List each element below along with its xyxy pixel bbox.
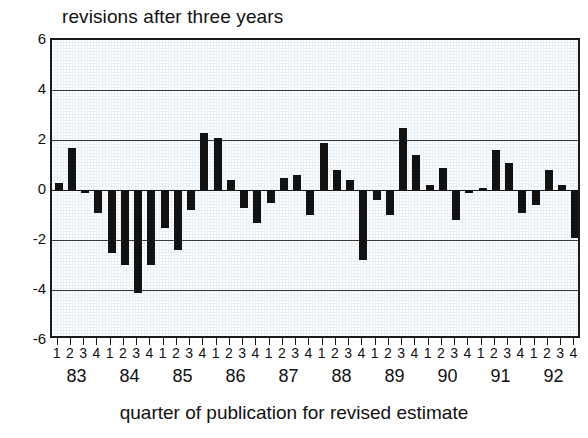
bar: [227, 180, 235, 190]
x-tick-mark: [534, 338, 535, 345]
chart-title: revisions after three years: [62, 6, 283, 28]
bar: [94, 190, 102, 213]
bar: [108, 190, 116, 253]
x-tick-mark: [361, 338, 362, 345]
x-tick-mark: [282, 338, 283, 345]
x-axis-quarter-labels: 1234123412341234123412341234123412341234: [50, 345, 580, 365]
x-tick-mark: [520, 338, 521, 345]
y-tick-label: -6: [2, 331, 46, 346]
quarter-label: 1: [209, 345, 223, 362]
x-tick-mark: [481, 338, 482, 345]
x-tick-mark: [428, 338, 429, 345]
quarter-label: 3: [341, 345, 355, 362]
bar: [532, 190, 540, 205]
quarter-label: 4: [142, 345, 156, 362]
y-tick-label: 0: [2, 181, 46, 196]
x-tick-mark: [70, 338, 71, 345]
bar: [373, 190, 381, 200]
quarter-label: 3: [129, 345, 143, 362]
x-tick-mark: [229, 338, 230, 345]
bar: [200, 133, 208, 191]
quarter-label: 2: [116, 345, 130, 362]
y-tick-label: -2: [2, 231, 46, 246]
bar: [187, 190, 195, 210]
quarter-label: 1: [421, 345, 435, 362]
bar: [280, 178, 288, 191]
bar: [346, 180, 354, 190]
bar: [439, 168, 447, 191]
y-tick-label: 6: [2, 31, 46, 46]
chart-figure: revisions after three years 6420-2-4-6 1…: [0, 0, 588, 438]
quarter-label: 1: [474, 345, 488, 362]
bar: [68, 148, 76, 191]
bar: [492, 150, 500, 190]
bar: [333, 170, 341, 190]
x-tick-mark: [189, 338, 190, 345]
x-tick-mark: [401, 338, 402, 345]
x-tick-mark: [375, 338, 376, 345]
quarter-label: 1: [103, 345, 117, 362]
bar: [426, 185, 434, 190]
bar: [81, 190, 89, 193]
x-tick-mark: [335, 338, 336, 345]
x-tick-mark: [57, 338, 58, 345]
x-tick-mark: [149, 338, 150, 345]
quarter-label: 3: [394, 345, 408, 362]
x-tick-mark: [96, 338, 97, 345]
x-tick-mark: [494, 338, 495, 345]
quarter-label: 2: [328, 345, 342, 362]
quarter-label: 2: [381, 345, 395, 362]
quarter-label: 4: [407, 345, 421, 362]
x-tick-mark: [269, 338, 270, 345]
y-tick-label: -4: [2, 281, 46, 296]
bar: [320, 143, 328, 191]
quarter-label: 1: [262, 345, 276, 362]
bar: [306, 190, 314, 215]
quarter-label: 4: [354, 345, 368, 362]
x-tick-mark: [322, 338, 323, 345]
quarter-label: 3: [553, 345, 567, 362]
quarter-label: 2: [63, 345, 77, 362]
year-label: 89: [373, 365, 417, 387]
x-tick-mark: [388, 338, 389, 345]
x-tick-mark: [414, 338, 415, 345]
bar: [386, 190, 394, 215]
x-axis-year-labels: 83848586878889909192: [50, 365, 580, 389]
x-tick-mark: [242, 338, 243, 345]
x-tick-mark: [255, 338, 256, 345]
quarter-label: 4: [513, 345, 527, 362]
quarter-label: 3: [288, 345, 302, 362]
bar: [174, 190, 182, 250]
bar: [161, 190, 169, 228]
x-tick-mark: [295, 338, 296, 345]
quarter-label: 1: [527, 345, 541, 362]
x-tick-mark: [110, 338, 111, 345]
bar: [465, 190, 473, 193]
x-tick-mark: [123, 338, 124, 345]
quarter-label: 2: [222, 345, 236, 362]
bar: [214, 138, 222, 191]
quarter-label: 2: [275, 345, 289, 362]
bar: [121, 190, 129, 265]
bar: [452, 190, 460, 220]
x-tick-mark: [560, 338, 561, 345]
quarter-label: 4: [301, 345, 315, 362]
x-tick-mark: [441, 338, 442, 345]
quarter-label: 3: [182, 345, 196, 362]
x-tick-mark: [176, 338, 177, 345]
bar: [240, 190, 248, 208]
bar: [147, 190, 155, 265]
quarter-label: 4: [195, 345, 209, 362]
bar: [412, 155, 420, 190]
year-label: 86: [214, 365, 258, 387]
x-tick-mark: [136, 338, 137, 345]
y-axis: 6420-2-4-6: [0, 38, 46, 338]
bar: [518, 190, 526, 213]
year-label: 92: [532, 365, 576, 387]
year-label: 84: [108, 365, 152, 387]
quarter-label: 2: [434, 345, 448, 362]
year-label: 91: [479, 365, 523, 387]
bar: [253, 190, 261, 223]
bar: [293, 175, 301, 190]
quarter-label: 4: [89, 345, 103, 362]
